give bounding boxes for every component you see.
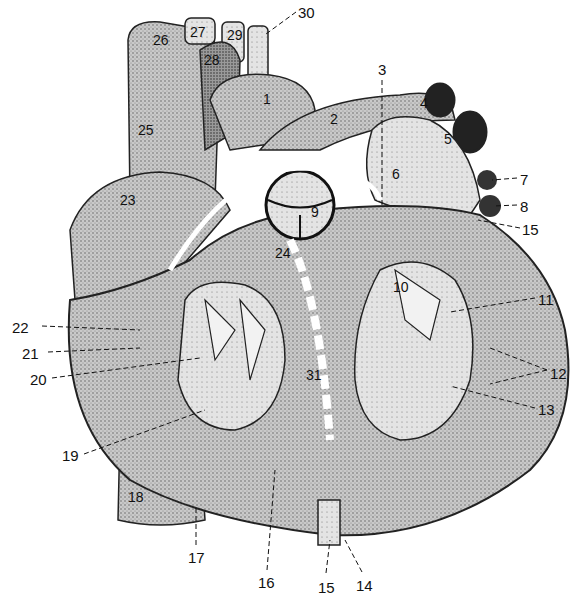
label-27: 27 — [190, 25, 206, 39]
label-19: 19 — [62, 448, 79, 463]
label-9: 9 — [311, 205, 319, 219]
label-20: 20 — [30, 372, 47, 387]
label-15-right: 15 — [522, 222, 539, 237]
leader-lines — [0, 0, 578, 602]
label-8: 8 — [520, 199, 528, 214]
label-25: 25 — [138, 123, 154, 137]
label-30: 30 — [298, 5, 315, 20]
label-28: 28 — [204, 53, 220, 67]
label-10: 10 — [393, 280, 409, 294]
label-13: 13 — [538, 402, 555, 417]
label-15-bottom: 15 — [318, 580, 335, 595]
label-24: 24 — [275, 246, 291, 260]
label-21: 21 — [22, 346, 39, 361]
label-16: 16 — [258, 575, 275, 590]
label-14: 14 — [356, 578, 373, 593]
label-22: 22 — [12, 320, 29, 335]
heart-diagram: 1 2 3 4 5 6 7 8 9 10 11 12 13 14 15 15 1… — [0, 0, 578, 602]
label-29: 29 — [227, 28, 243, 42]
label-4: 4 — [420, 96, 428, 110]
label-1: 1 — [263, 92, 271, 106]
label-17: 17 — [188, 550, 205, 565]
label-3: 3 — [378, 62, 386, 77]
label-31: 31 — [306, 368, 322, 382]
label-26: 26 — [153, 33, 169, 47]
label-2: 2 — [330, 112, 338, 126]
label-12: 12 — [550, 366, 567, 381]
label-5: 5 — [444, 132, 452, 146]
label-11: 11 — [538, 292, 554, 307]
label-6: 6 — [392, 167, 400, 181]
label-18: 18 — [128, 490, 144, 504]
label-7: 7 — [520, 172, 528, 187]
label-23: 23 — [120, 193, 136, 207]
